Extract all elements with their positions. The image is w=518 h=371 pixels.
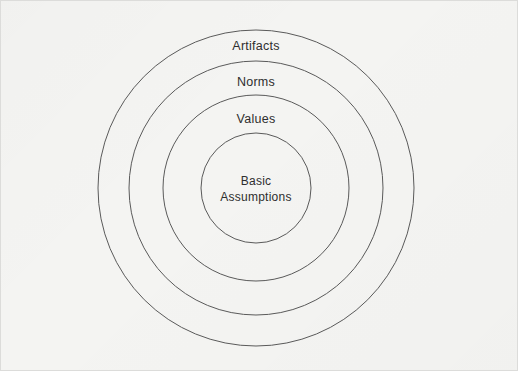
ring-label-norms: Norms: [237, 75, 275, 89]
ring-label-basic-assumptions-line1: Basic: [241, 174, 272, 188]
ring-label-values: Values: [237, 112, 276, 126]
ring-label-artifacts: Artifacts: [232, 39, 279, 53]
ring-label-basic-assumptions-line2: Assumptions: [220, 190, 291, 204]
culture-levels-diagram: Artifacts Norms Values Basic Assumptions: [0, 0, 518, 371]
concentric-rings-svg: Artifacts Norms Values Basic Assumptions: [1, 1, 518, 371]
